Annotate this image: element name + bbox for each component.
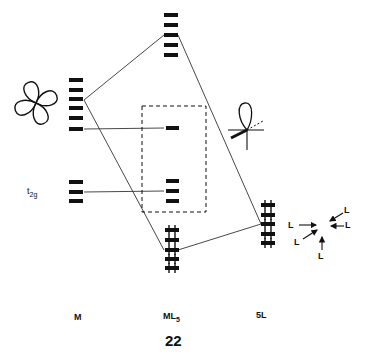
ligand-arrows [299,213,344,250]
ML5-levels [164,13,179,203]
orbital-interaction-diagram [0,0,367,357]
ML5-frontier-level [166,126,179,130]
5L-filled-level [261,229,275,239]
ML5-top-level [164,23,178,27]
M-levels [69,78,83,203]
ligand-label: L [345,221,351,230]
ML5-top-level [164,33,178,37]
ML5-filled-level [165,225,179,235]
5L-filled-level [261,200,275,210]
ML5-filled-levels [165,225,179,273]
ML5-t2g-level [166,179,179,183]
column-label-ML5: ML5 [163,312,180,323]
figure-number: 22 [165,333,182,348]
correlation-lines [84,35,261,250]
line-t2g-to-ML5-t2g [84,191,164,192]
line-M-to-ML5-top [84,35,164,100]
M-level [69,116,83,120]
ligand-label: L [288,221,294,230]
frontier-orbitals-box [142,106,206,212]
M-level [69,88,83,92]
5L-filled-level [261,238,275,248]
M-t2g-level [69,180,83,184]
ligand-arrow [330,213,343,221]
M-t2g-level [69,190,83,194]
hybrid-orbital-icon [228,103,264,150]
ML5-filled-level [165,245,179,255]
5L-filled-levels [261,200,275,248]
line-M-to-ML5-bottom [84,100,164,250]
line-ML5-bottom-to-5L [178,224,261,250]
ML5-t2g-level [166,189,179,193]
ligand-label: L [294,238,300,247]
ML5-top-level [164,13,178,17]
line-M-to-ML5-frontier [84,128,164,129]
column-label-5L: 5L [256,311,267,320]
M-level [69,78,83,82]
ligand-label: L [344,206,350,215]
column-label-M: M [74,313,82,322]
ML5-t2g-level [166,199,179,203]
ML5-filled-level [165,254,179,264]
d-orbital-icon [8,75,64,131]
M-level [69,97,83,101]
ML5-top-level [164,43,178,47]
ML5-filled-level [165,263,179,273]
ML5-filled-level [165,235,179,245]
M-level [69,106,83,110]
M-level [69,127,83,131]
5L-filled-level [261,210,275,220]
ML5-top-level [164,53,178,57]
M-t2g-level [69,199,83,203]
5L-filled-level [261,219,275,229]
ligand-arrow [303,230,317,239]
ligand-label: L [318,252,324,261]
t2g-label: t2g [27,187,37,198]
